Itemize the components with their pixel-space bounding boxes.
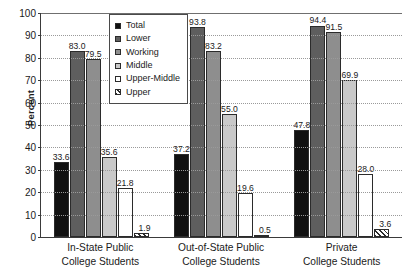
grid-line (41, 58, 402, 59)
y-axis-tick-label: 90 (25, 30, 36, 41)
legend-item-label: Middle (126, 61, 153, 70)
bar-chart: Percent 33.683.079.535.621.81.937.293.88… (0, 0, 412, 278)
bar-value-label: 83.2 (205, 42, 222, 51)
y-axis-tick-label: 10 (25, 209, 36, 220)
y-axis-tick-mark (38, 125, 42, 126)
legend-item-label: Lower (126, 34, 151, 43)
x-axis-category-label: PrivateCollege Students (281, 241, 402, 269)
legend-item-label: Upper-Middle (126, 74, 180, 83)
y-axis-tick-label: 40 (25, 142, 36, 153)
bar-value-label: 21.8 (117, 179, 134, 188)
bar-value-label: 69.9 (341, 71, 358, 80)
x-axis-category-labels: In-State PublicCollege StudentsOut-of-St… (40, 241, 402, 269)
y-axis-tick-label: 70 (25, 75, 36, 86)
bar[interactable]: 69.9 (342, 80, 357, 237)
grid-line (41, 80, 402, 81)
legend-item[interactable]: Lower (115, 32, 180, 45)
grid-line (41, 103, 402, 104)
legend-swatch-icon (115, 36, 121, 42)
category-label-line: College Students (40, 255, 161, 269)
legend-item[interactable]: Working (115, 46, 180, 59)
legend-swatch-icon (115, 63, 121, 69)
y-axis-tick-mark (38, 147, 42, 148)
y-axis-tick-label: 100 (19, 8, 36, 19)
grid-line (41, 192, 402, 193)
bar-value-label: 93.8 (189, 18, 206, 27)
bar[interactable]: 83.0 (70, 51, 85, 237)
legend-item[interactable]: Upper-Middle (115, 72, 180, 85)
y-axis-tick-mark (38, 13, 42, 14)
legend-swatch-icon (115, 89, 121, 95)
y-axis-tick-mark (38, 192, 42, 193)
bar-value-label: 1.9 (139, 224, 151, 233)
bar-value-label: 3.6 (379, 220, 391, 229)
grid-line (41, 35, 402, 36)
bar[interactable]: 21.8 (118, 188, 133, 237)
y-axis-tick-mark (38, 170, 42, 171)
category-label-line: In-State Public (40, 241, 161, 255)
y-axis-tick-mark (38, 80, 42, 81)
bar[interactable]: 1.9 (134, 233, 149, 237)
legend-item-label: Total (126, 21, 145, 30)
legend-swatch-icon (115, 76, 121, 82)
bar[interactable]: 0.5 (254, 235, 269, 237)
bar[interactable]: 83.2 (206, 51, 221, 237)
legend-item[interactable]: Middle (115, 59, 180, 72)
bar-value-label: 35.6 (101, 148, 118, 157)
bar-value-label: 33.6 (53, 153, 70, 162)
category-label-line: Out-of-State Public (161, 241, 282, 255)
bar-value-label: 94.4 (309, 16, 326, 25)
bar[interactable]: 33.6 (54, 162, 69, 237)
bar-value-label: 55.0 (221, 105, 238, 114)
grid-line (41, 170, 402, 171)
bar[interactable]: 55.0 (222, 114, 237, 237)
y-axis-tick-label: 30 (25, 164, 36, 175)
plot-area: 33.683.079.535.621.81.937.293.883.255.01… (40, 13, 402, 238)
bar[interactable]: 28.0 (358, 174, 373, 237)
grid-line (41, 13, 402, 14)
bar[interactable]: 91.5 (326, 32, 341, 237)
y-axis-tick-label: 50 (25, 120, 36, 131)
y-axis-tick-mark (38, 237, 42, 238)
bar-value-label: 83.0 (69, 42, 86, 51)
category-label-line: College Students (281, 255, 402, 269)
grid-line (41, 125, 402, 126)
y-axis-tick-mark (38, 35, 42, 36)
legend-item[interactable]: Upper (115, 85, 180, 98)
y-axis-tick-label: 0 (30, 232, 36, 243)
bar-value-label: 91.5 (325, 23, 342, 32)
legend-item-label: Upper (126, 88, 151, 97)
category-label-line: College Students (161, 255, 282, 269)
bar[interactable]: 3.6 (374, 229, 389, 237)
y-axis-tick-label: 60 (25, 97, 36, 108)
y-axis-tick-mark (38, 215, 42, 216)
legend-swatch-icon (115, 49, 121, 55)
y-axis-tick-mark (38, 103, 42, 104)
grid-line (41, 215, 402, 216)
legend-item[interactable]: Total (115, 19, 180, 32)
grid-line (41, 147, 402, 148)
y-axis-tick-mark (38, 58, 42, 59)
bar[interactable]: 47.8 (294, 130, 309, 237)
x-axis-category-label: In-State PublicCollege Students (40, 241, 161, 269)
bar-value-label: 37.2 (173, 145, 190, 154)
y-axis-tick-label: 20 (25, 187, 36, 198)
x-axis-category-label: Out-of-State PublicCollege Students (161, 241, 282, 269)
legend-swatch-icon (115, 23, 121, 29)
y-axis-tick-label: 80 (25, 52, 36, 63)
chart-legend: TotalLowerWorkingMiddleUpper-MiddleUpper (109, 14, 188, 104)
legend-item-label: Working (126, 48, 159, 57)
bar[interactable]: 37.2 (174, 154, 189, 237)
bar-value-label: 0.5 (259, 226, 271, 235)
category-label-line: Private (281, 241, 402, 255)
